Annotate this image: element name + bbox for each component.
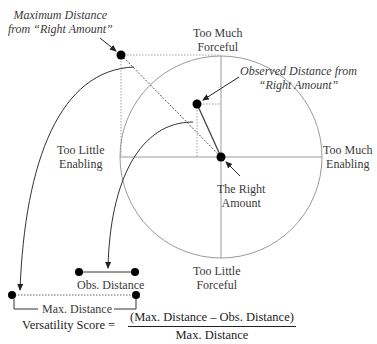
label-too-much-enabling: Too Much Enabling [323, 143, 373, 171]
label-line: The Right [217, 182, 265, 196]
max-distance-line [121, 55, 221, 157]
formula-fraction: (Max. Distance – Obs. Distance) Max. Dis… [128, 310, 296, 343]
label-line: Forceful [193, 40, 243, 54]
right-amount-point [217, 153, 226, 162]
label-line: Forceful [193, 278, 240, 292]
max-point [117, 51, 126, 60]
max-bar-left-dot [8, 291, 16, 299]
label-line: Maximum Distance [8, 8, 113, 22]
label-too-little-forceful: Too Little Forceful [193, 264, 240, 292]
label-line: Too Much [193, 26, 243, 40]
callout-max-distance: Maximum Distance from “Right Amount” [8, 8, 113, 36]
max-distance-label: Max. Distance [40, 302, 114, 316]
obs-bar-left-dot [75, 268, 83, 276]
label-line: Too Little [193, 264, 240, 278]
max-distance-arc [20, 67, 134, 290]
callout-right-amount: The Right Amount [217, 182, 265, 210]
observed-point [193, 100, 202, 109]
versatility-diagram [0, 0, 377, 344]
label-line: Amount [217, 196, 265, 210]
label-line: Too Little [57, 143, 104, 157]
obs-distance-label: Obs. Distance [77, 278, 144, 292]
label-too-much-forceful: Too Much Forceful [193, 26, 243, 54]
observed-distance-line [197, 104, 221, 157]
formula-lhs: Versatility Score = [22, 318, 115, 333]
callout-observed-distance: Observed Distance from “Right Amount” [240, 64, 357, 92]
label-line: Enabling [57, 157, 104, 171]
obs-bar-right-dot [131, 268, 139, 276]
formula-denominator: Max. Distance [128, 327, 296, 343]
max-callout-arrow [100, 38, 116, 51]
max-bar-right-dot [132, 291, 140, 299]
label-line: Observed Distance from [240, 64, 357, 78]
label-line: “Right Amount” [240, 78, 357, 92]
label-too-little-enabling: Too Little Enabling [57, 143, 104, 171]
right-amount-callout-arrow [226, 162, 240, 176]
label-line: Too Much [323, 143, 373, 157]
label-line: from “Right Amount” [8, 22, 113, 36]
label-line: Enabling [323, 157, 373, 171]
formula-numerator: (Max. Distance – Obs. Distance) [128, 310, 296, 327]
